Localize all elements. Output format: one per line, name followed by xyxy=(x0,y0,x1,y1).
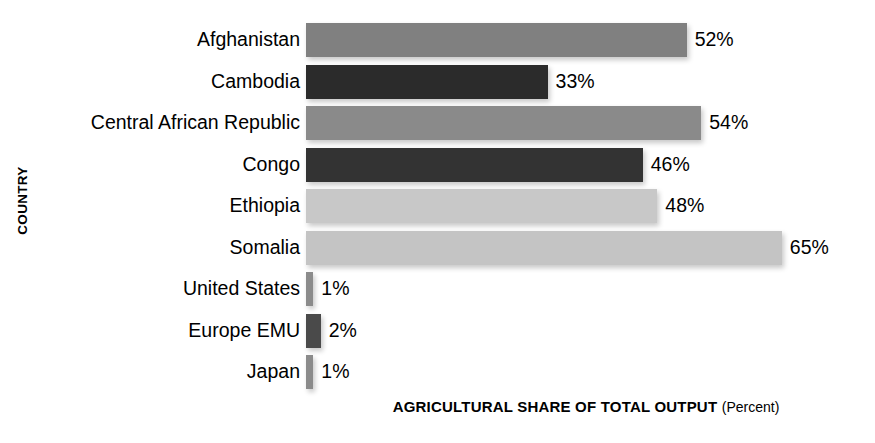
bar-group: 54% xyxy=(306,106,748,140)
category-label: Central African Republic xyxy=(0,113,300,133)
x-axis-title-unit: (Percent) xyxy=(722,399,780,415)
x-axis-title: AGRICULTURAL SHARE OF TOTAL OUTPUT (Perc… xyxy=(306,398,866,416)
bar xyxy=(306,23,687,57)
bar-row: Afghanistan52% xyxy=(0,23,875,57)
category-label: Ethiopia xyxy=(0,196,300,216)
plot-area: Afghanistan52%Cambodia33%Central African… xyxy=(0,0,875,400)
bar-value-label: 54% xyxy=(709,113,748,133)
category-label: Afghanistan xyxy=(0,30,300,50)
bar-row: Congo46% xyxy=(0,148,875,182)
category-label: United States xyxy=(0,279,300,299)
bar xyxy=(306,106,701,140)
bar-group: 52% xyxy=(306,23,734,57)
bar-row: Central African Republic54% xyxy=(0,106,875,140)
bar-row: Japan1% xyxy=(0,355,875,389)
bar-chart: COUNTRY Afghanistan52%Cambodia33%Central… xyxy=(0,0,875,443)
bar-value-label: 46% xyxy=(651,155,690,175)
category-label: Japan xyxy=(0,362,300,382)
bar-row: Cambodia33% xyxy=(0,65,875,99)
bar-group: 48% xyxy=(306,189,704,223)
bar-group: 1% xyxy=(306,272,350,306)
bar-value-label: 52% xyxy=(695,30,734,50)
bar-value-label: 1% xyxy=(321,362,349,382)
bar xyxy=(306,272,313,306)
bar-group: 1% xyxy=(306,355,350,389)
bar-value-label: 65% xyxy=(790,238,829,258)
bar-row: Ethiopia48% xyxy=(0,189,875,223)
bar-group: 65% xyxy=(306,231,829,265)
category-label: Congo xyxy=(0,155,300,175)
bar-value-label: 33% xyxy=(556,72,595,92)
bar-value-label: 1% xyxy=(321,279,349,299)
bar-group: 2% xyxy=(306,314,357,348)
bar xyxy=(306,355,313,389)
bar xyxy=(306,189,657,223)
bar-group: 46% xyxy=(306,148,690,182)
bar xyxy=(306,231,782,265)
category-label: Somalia xyxy=(0,238,300,258)
bar xyxy=(306,148,643,182)
category-label: Cambodia xyxy=(0,72,300,92)
bar-value-label: 48% xyxy=(665,196,704,216)
bar-row: United States1% xyxy=(0,272,875,306)
category-label: Europe EMU xyxy=(0,321,300,341)
bar-row: Europe EMU2% xyxy=(0,314,875,348)
bar-group: 33% xyxy=(306,65,595,99)
x-axis-title-main: AGRICULTURAL SHARE OF TOTAL OUTPUT xyxy=(393,398,718,415)
bar xyxy=(306,65,548,99)
bar xyxy=(306,314,321,348)
bar-value-label: 2% xyxy=(329,321,357,341)
bar-row: Somalia65% xyxy=(0,231,875,265)
